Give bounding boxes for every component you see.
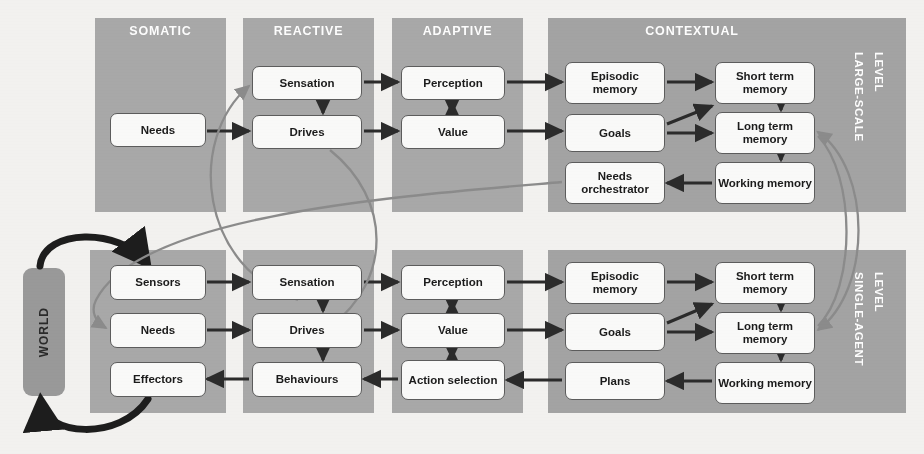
node-t-drives: Drives <box>252 115 362 149</box>
node-b-sensors: Sensors <box>110 265 206 300</box>
level-label-large-scale-line2: LEVEL <box>873 52 885 92</box>
panel-level-large-scale <box>836 18 906 212</box>
node-b-sensation: Sensation <box>252 265 362 300</box>
node-b-needs: Needs <box>110 313 206 348</box>
node-b-plans: Plans <box>565 362 665 400</box>
node-t-working: Working memory <box>715 162 815 204</box>
panel-title-reactive-top: REACTIVE <box>243 24 374 38</box>
world-label: WORLD <box>37 307 51 357</box>
node-b-action: Action selection <box>401 360 505 400</box>
node-b-goals: Goals <box>565 313 665 351</box>
node-t-needs: Needs <box>110 113 206 147</box>
node-t-long: Long term memory <box>715 112 815 154</box>
panel-title-somatic-top: SOMATIC <box>95 24 226 38</box>
node-t-value: Value <box>401 115 505 149</box>
level-label-single-agent-line1: SINGLE-AGENT <box>853 272 865 366</box>
node-t-goals: Goals <box>565 114 665 152</box>
node-b-long: Long term memory <box>715 312 815 354</box>
node-t-needsorch: Needs orchestrator <box>565 162 665 204</box>
node-b-behaviours: Behaviours <box>252 362 362 397</box>
level-label-single-agent: SINGLE-AGENT <box>852 272 865 366</box>
node-b-episodic: Episodic memory <box>565 262 665 304</box>
node-b-short: Short term memory <box>715 262 815 304</box>
panel-title-contextual-top: CONTEXTUAL <box>548 24 836 38</box>
node-b-drives: Drives <box>252 313 362 348</box>
level-label-large-scale-2: LEVEL <box>872 52 885 92</box>
panel-level-single-agent <box>836 250 906 413</box>
node-t-sensation: Sensation <box>252 66 362 100</box>
node-t-episodic: Episodic memory <box>565 62 665 104</box>
level-label-large-scale-line1: LARGE-SCALE <box>853 52 865 142</box>
node-b-working: Working memory <box>715 362 815 404</box>
world-block: WORLD <box>23 268 65 396</box>
level-label-single-agent-line2: LEVEL <box>873 272 885 312</box>
node-b-effectors: Effectors <box>110 362 206 397</box>
node-t-short: Short term memory <box>715 62 815 104</box>
level-label-single-agent-2: LEVEL <box>872 272 885 312</box>
level-label-large-scale: LARGE-SCALE <box>852 52 865 142</box>
node-b-perception: Perception <box>401 265 505 300</box>
node-t-perception: Perception <box>401 66 505 100</box>
diagram-canvas: SOMATIC REACTIVE ADAPTIVE CONTEXTUAL LAR… <box>0 0 924 454</box>
node-b-value: Value <box>401 313 505 348</box>
panel-title-adaptive-top: ADAPTIVE <box>392 24 523 38</box>
